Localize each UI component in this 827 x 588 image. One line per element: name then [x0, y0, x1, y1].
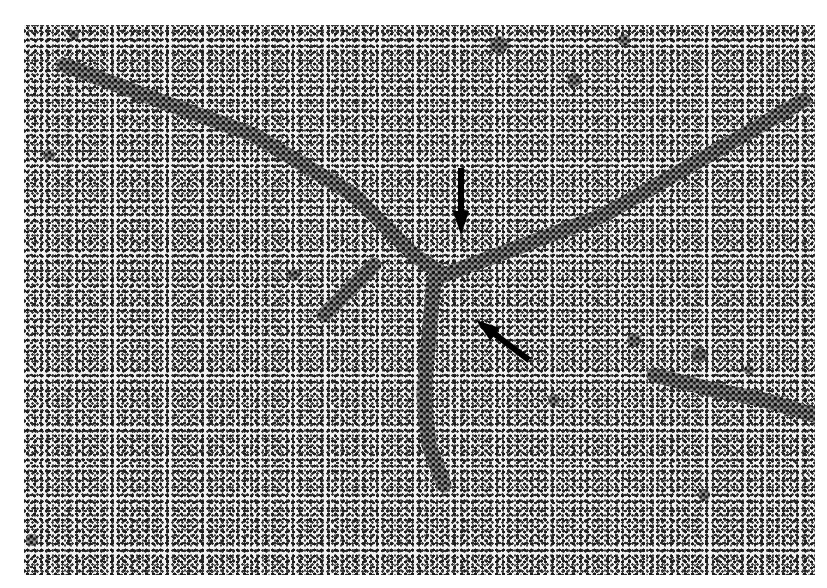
- lower-stem: [424, 280, 444, 485]
- dna-strands: [64, 65, 814, 485]
- particle-clusters: [26, 30, 754, 546]
- upper-left-arm: [64, 65, 444, 275]
- right-arm: [444, 100, 804, 275]
- dna-scene: [24, 25, 815, 575]
- arrow-diagonal-icon: [476, 320, 531, 362]
- micrograph-image: [24, 25, 815, 575]
- arrow-vertical-icon: [453, 168, 469, 235]
- short-left-spur: [324, 265, 374, 315]
- lower-right-fragment: [654, 375, 814, 415]
